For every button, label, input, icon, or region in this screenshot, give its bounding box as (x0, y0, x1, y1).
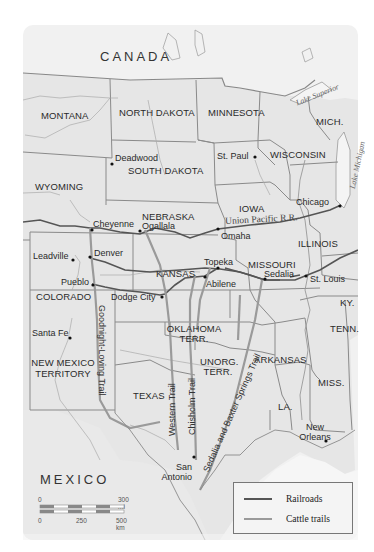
label-western-trail: Western Trail (168, 383, 177, 436)
scale-km-mid: 250 (76, 517, 87, 524)
label-goodnight-loving-trail: Goodnight-Loving Trail (97, 305, 106, 396)
map: CANADA MEXICO MONTANA NORTH DAKOTA MINNE… (0, 0, 374, 552)
cattle-trail-line-icon (244, 518, 272, 520)
label-dodge-city: Dodge City (111, 293, 156, 302)
legend-item-railroads: Railroads (244, 493, 322, 505)
scale-mi-start: 0 (38, 496, 42, 503)
label-south-dakota: SOUTH DAKOTA (128, 166, 203, 176)
label-topeka: Topeka (204, 258, 233, 267)
label-la: LA. (278, 402, 293, 412)
label-wisconsin: WISCONSIN (270, 150, 326, 160)
scale-bar-graphic (38, 504, 128, 516)
legend-item-cattle-trails: Cattle trails (244, 513, 330, 525)
label-texas: TEXAS (133, 391, 165, 401)
label-ky: KY. (340, 298, 354, 308)
label-illinois: ILLINOIS (298, 239, 338, 249)
label-cheyenne: Cheyenne (93, 220, 134, 229)
label-unorg-terr: UNORG. TERR. (200, 357, 236, 377)
legend: Railroads Cattle trails (233, 482, 353, 534)
label-pueblo: Pueblo (61, 278, 89, 287)
label-mich: MICH. (316, 117, 343, 127)
label-iowa: IOWA (239, 204, 264, 214)
legend-label-cattle-trails: Cattle trails (286, 514, 330, 524)
label-abilene: Abilene (206, 280, 236, 289)
label-omaha: Omaha (221, 232, 251, 241)
label-oklahoma-terr: OKLAHOMA TERR. (166, 324, 222, 344)
label-new-mexico-territory: NEW MEXICO TERRITORY (28, 357, 98, 379)
label-oklahoma-terr-text: OKLAHOMA TERR. (166, 324, 222, 344)
label-tenn: TENN. (330, 324, 359, 334)
label-minnesota: MINNESOTA (208, 108, 265, 118)
label-ogallala: Ogallala (142, 222, 175, 231)
label-mexico: MEXICO (40, 473, 109, 486)
label-leadville: Leadville (33, 252, 69, 261)
label-santa-fe: Santa Fe (32, 329, 69, 338)
label-st-louis: St. Louis (310, 275, 345, 284)
scale-km-end: 500 km (116, 517, 128, 531)
label-sedalia: Sedalia (264, 270, 294, 279)
legend-label-railroads: Railroads (286, 494, 322, 504)
railroad-line-icon (244, 498, 272, 500)
label-chisholm-trail: Chisholm Trail (188, 378, 197, 435)
label-kansas: KANSAS (156, 269, 195, 279)
label-st-paul: St. Paul (217, 152, 249, 161)
label-chicago: Chicago (296, 198, 329, 207)
label-miss: MISS. (318, 378, 344, 388)
label-colorado: COLORADO (36, 292, 91, 302)
scale-km-start: 0 (38, 517, 42, 524)
label-montana: MONTANA (41, 111, 89, 121)
label-san-antonio: San Antonio (160, 462, 192, 482)
label-canada: CANADA (100, 50, 172, 63)
label-wyoming: WYOMING (35, 182, 83, 192)
scale-bar: 0 300 mi 0 250 500 km (38, 496, 128, 526)
label-north-dakota: NORTH DAKOTA (119, 108, 195, 118)
label-deadwood: Deadwood (115, 154, 158, 163)
label-new-orleans: New Orleans (297, 422, 333, 442)
label-denver: Denver (94, 249, 123, 258)
